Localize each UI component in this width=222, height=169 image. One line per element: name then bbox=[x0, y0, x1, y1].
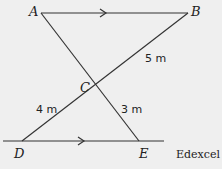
geometry-diagram: A B C D E 5 m 4 m 3 m Edexcel bbox=[0, 0, 222, 169]
label-e: E bbox=[138, 146, 149, 161]
length-cd: 4 m bbox=[36, 103, 57, 116]
source-label: Edexcel bbox=[176, 148, 220, 161]
label-b: B bbox=[190, 4, 201, 19]
length-bc: 5 m bbox=[145, 52, 166, 65]
segment-bd bbox=[22, 13, 188, 141]
segment-ae bbox=[41, 13, 139, 141]
label-c: C bbox=[80, 80, 90, 95]
label-d: D bbox=[13, 146, 25, 161]
label-a: A bbox=[28, 4, 38, 19]
length-ce: 3 m bbox=[121, 103, 142, 116]
